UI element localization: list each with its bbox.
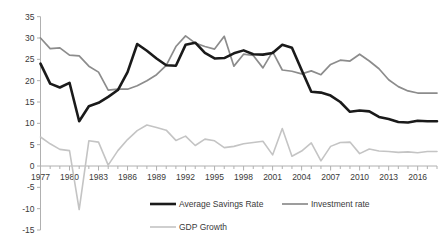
x-axis-tick-label: 2010 xyxy=(350,172,369,182)
x-axis-tick-label: 2007 xyxy=(321,172,340,182)
x-axis-tick-label: 2004 xyxy=(292,172,311,182)
legend-label-investment-rate: Investment rate xyxy=(311,199,370,209)
x-axis-tick-label: 1983 xyxy=(89,172,108,182)
line-chart: 35302520151050-5-10-15 19771980198319861… xyxy=(0,0,446,249)
x-axis-tick-label: 1977 xyxy=(31,172,50,182)
y-axis-tick-label: -5 xyxy=(27,182,35,192)
x-axis-tick-label: 2001 xyxy=(263,172,282,182)
x-axis-tick-label: 2016 xyxy=(408,172,427,182)
chart-canvas: 35302520151050-5-10-15 19771980198319861… xyxy=(0,0,446,249)
x-axis-tick-label: 2013 xyxy=(379,172,398,182)
x-axis-tick-label: 1980 xyxy=(60,172,79,182)
legend-label-gdp-growth: GDP Growth xyxy=(179,222,227,232)
y-axis-tick-label: 15 xyxy=(25,97,35,107)
x-axis-tick-label: 1992 xyxy=(176,172,195,182)
y-axis-tick-label: 25 xyxy=(25,54,35,64)
y-axis-tick-label: 30 xyxy=(25,33,35,43)
y-axis-tick-label: -15 xyxy=(22,225,35,235)
y-axis-tick-label: 35 xyxy=(25,12,35,22)
y-axis-tick-label: 10 xyxy=(25,118,35,128)
y-axis-tick-label: 0 xyxy=(30,161,35,171)
x-axis-tick-label: 1998 xyxy=(234,172,253,182)
x-axis-tick-label: 1995 xyxy=(205,172,224,182)
y-axis-tick-label: 5 xyxy=(30,140,35,150)
legend-label-average-savings-rate: Average Savings Rate xyxy=(179,199,264,209)
y-axis-tick-label: -10 xyxy=(22,204,35,214)
x-axis-tick-label: 1989 xyxy=(147,172,166,182)
x-axis-tick-label: 1986 xyxy=(118,172,137,182)
y-axis-tick-label: 20 xyxy=(25,76,35,86)
